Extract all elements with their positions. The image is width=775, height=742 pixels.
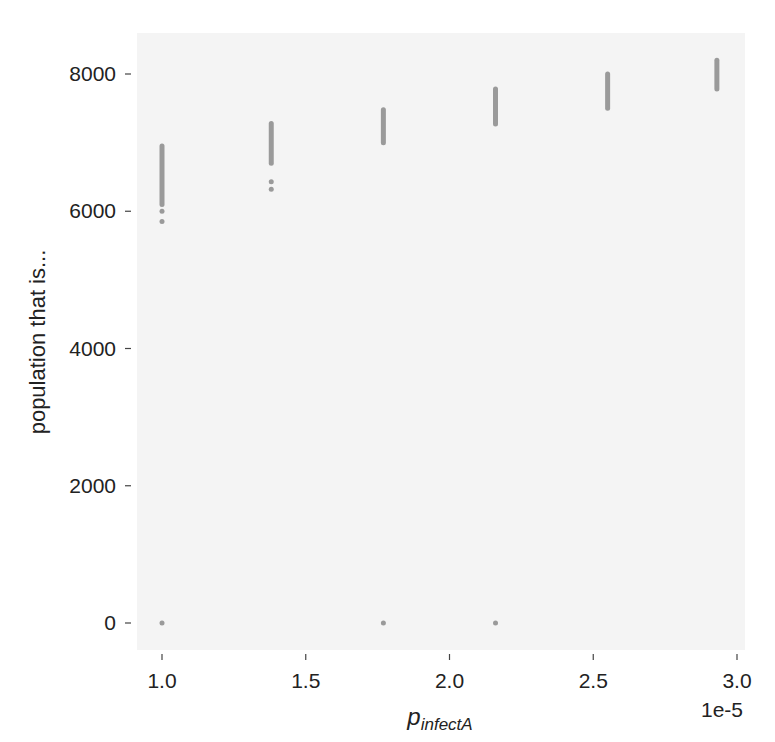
data-point (269, 179, 274, 184)
y-tick-label: 6000 (69, 199, 116, 222)
y-tick-label: 2000 (69, 474, 116, 497)
y-axis-label: population that is... (25, 250, 50, 435)
y-tick-label: 0 (104, 611, 116, 634)
x-axis-offset-label: 1e-5 (701, 698, 743, 721)
x-axis: 1.01.52.02.53.0 (147, 654, 751, 692)
data-point (269, 187, 274, 192)
x-tick-label: 1.5 (291, 669, 320, 692)
x-tick-label: 3.0 (722, 669, 751, 692)
x-tick-label: 2.0 (435, 669, 464, 692)
x-tick-label: 2.5 (579, 669, 608, 692)
plot-background (137, 33, 745, 650)
y-axis: 02000400060008000 (69, 62, 131, 634)
x-tick-label: 1.0 (147, 669, 176, 692)
scatter-chart: 02000400060008000 1.01.52.02.53.0 popula… (0, 0, 775, 742)
data-point (160, 219, 165, 224)
data-point (381, 621, 386, 626)
data-point (160, 621, 165, 626)
y-tick-label: 4000 (69, 337, 116, 360)
x-axis-label: pinfectA (406, 703, 472, 734)
y-tick-label: 8000 (69, 62, 116, 85)
data-point (493, 621, 498, 626)
data-point (160, 209, 165, 214)
